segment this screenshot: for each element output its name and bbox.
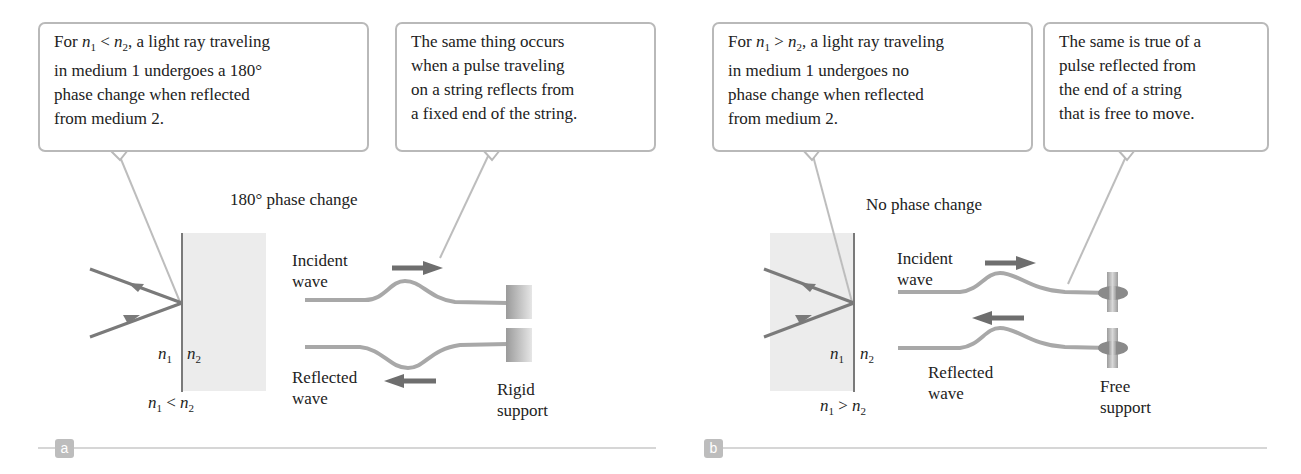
leader-line-string	[440, 152, 490, 258]
reflected-string	[305, 344, 508, 368]
medium-2-region	[182, 233, 266, 391]
n1-label: n1	[830, 344, 844, 365]
panel-b-badge: b	[704, 439, 723, 458]
free-support-post-overlap	[1109, 341, 1116, 355]
callout-line: The same thing occurs	[411, 30, 640, 54]
incident-ray	[90, 303, 182, 337]
callout-line: phase change when reflected	[54, 83, 353, 107]
n2-label: n2	[187, 344, 201, 365]
callout-light-reflection-b: For n1 > n2, a light ray traveling in me…	[712, 22, 1033, 152]
n2-label: n2	[860, 344, 874, 365]
callout-line: on a string reflects from	[411, 78, 640, 102]
reflected-direction-arrowhead	[972, 311, 992, 325]
panel-a-badge: a	[55, 439, 74, 458]
callout-line: phase change when reflected	[728, 83, 1017, 107]
reflected-direction-arrowhead	[384, 374, 404, 388]
callout-line: For n1 > n2, a light ray traveling	[728, 30, 1017, 59]
incident-wave-label: Incident wave	[897, 248, 953, 290]
free-support-label: Free support	[1100, 376, 1151, 418]
free-support-post-overlap	[1109, 286, 1116, 300]
rigid-support-label: Rigid support	[497, 379, 548, 421]
callout-line: For n1 < n2, a light ray traveling	[54, 30, 353, 59]
n1-label: n1	[158, 344, 172, 365]
callout-string-reflection-a: The same thing occurs when a pulse trave…	[395, 22, 656, 152]
callout-string-reflection-b: The same is true of a pulse reflected fr…	[1043, 22, 1269, 152]
callout-line: in medium 1 undergoes no	[728, 59, 1017, 83]
callout-line: the end of a string	[1059, 78, 1253, 102]
incident-direction-arrowhead	[423, 261, 443, 275]
leader-line-string	[1068, 152, 1128, 284]
reflected-wave-label: Reflected wave	[928, 362, 993, 404]
leader-line-light	[118, 152, 180, 302]
callout-line: in medium 1 undergoes a 180°	[54, 59, 353, 83]
reflected-wave-label: Reflected wave	[292, 367, 357, 409]
callout-line: when a pulse traveling	[411, 54, 640, 78]
callout-line: from medium 2.	[728, 107, 1017, 131]
phase-change-label: No phase change	[866, 194, 982, 215]
incident-wave-label: Incident wave	[292, 250, 348, 292]
incident-direction-arrowhead	[1016, 256, 1036, 270]
rigid-support-top	[506, 285, 532, 319]
callout-line: from medium 2.	[54, 107, 353, 131]
medium-1-region	[770, 233, 854, 391]
index-relation-label: n1 > n2	[820, 396, 866, 417]
rigid-support-bottom	[506, 328, 532, 362]
reflected-string	[898, 328, 1110, 348]
callout-line: a fixed end of the string.	[411, 102, 640, 126]
callout-line: The same is true of a	[1059, 30, 1253, 54]
callout-line: that is free to move.	[1059, 102, 1253, 126]
index-relation-label: n1 < n2	[148, 393, 194, 414]
phase-change-label: 180° phase change	[230, 189, 358, 210]
callout-line: pulse reflected from	[1059, 54, 1253, 78]
callout-light-reflection-a: For n1 < n2, a light ray traveling in me…	[38, 22, 369, 152]
